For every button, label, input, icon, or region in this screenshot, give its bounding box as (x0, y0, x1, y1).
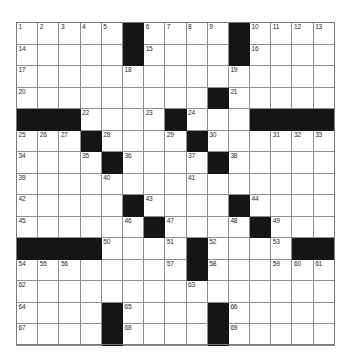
grid-cell[interactable]: 11 (271, 23, 292, 45)
grid-cell[interactable]: 34 (17, 152, 38, 174)
grid-cell[interactable] (165, 324, 186, 346)
grid-cell[interactable] (292, 216, 313, 238)
grid-cell[interactable]: 37 (186, 152, 207, 174)
grid-cell[interactable] (271, 302, 292, 324)
grid-cell[interactable] (80, 195, 101, 217)
grid-cell[interactable]: 21 (228, 87, 249, 109)
grid-cell[interactable] (186, 44, 207, 66)
grid-cell[interactable] (80, 259, 101, 281)
grid-cell[interactable] (165, 87, 186, 109)
grid-cell[interactable] (207, 195, 228, 217)
grid-cell[interactable]: 14 (17, 44, 38, 66)
grid-cell[interactable] (292, 44, 313, 66)
grid-cell[interactable] (271, 66, 292, 88)
grid-cell[interactable] (165, 152, 186, 174)
grid-cell[interactable]: 36 (122, 152, 143, 174)
grid-cell[interactable]: 39 (17, 173, 38, 195)
grid-cell[interactable] (38, 66, 59, 88)
grid-cell[interactable]: 16 (250, 44, 271, 66)
grid-cell[interactable]: 6 (144, 23, 165, 45)
grid-cell[interactable]: 66 (228, 302, 249, 324)
grid-cell[interactable] (313, 324, 334, 346)
grid-cell[interactable]: 53 (271, 238, 292, 260)
grid-cell[interactable]: 68 (122, 324, 143, 346)
grid-cell[interactable] (313, 216, 334, 238)
grid-cell[interactable]: 7 (165, 23, 186, 45)
grid-cell[interactable]: 38 (228, 152, 249, 174)
grid-cell[interactable] (228, 173, 249, 195)
grid-cell[interactable] (207, 44, 228, 66)
grid-cell[interactable] (207, 109, 228, 131)
grid-cell[interactable] (144, 130, 165, 152)
grid-cell[interactable]: 25 (17, 130, 38, 152)
grid-cell[interactable] (292, 66, 313, 88)
grid-cell[interactable]: 64 (17, 302, 38, 324)
grid-cell[interactable] (59, 195, 80, 217)
grid-cell[interactable]: 19 (228, 66, 249, 88)
grid-cell[interactable]: 18 (122, 66, 143, 88)
grid-cell[interactable] (144, 152, 165, 174)
grid-cell[interactable] (250, 173, 271, 195)
grid-cell[interactable]: 26 (38, 130, 59, 152)
grid-cell[interactable]: 63 (186, 281, 207, 303)
grid-cell[interactable] (122, 173, 143, 195)
grid-cell[interactable] (313, 87, 334, 109)
grid-cell[interactable] (186, 302, 207, 324)
grid-cell[interactable] (59, 44, 80, 66)
grid-cell[interactable]: 48 (228, 216, 249, 238)
grid-cell[interactable] (271, 87, 292, 109)
grid-cell[interactable] (313, 281, 334, 303)
grid-cell[interactable] (250, 302, 271, 324)
grid-cell[interactable]: 51 (165, 238, 186, 260)
grid-cell[interactable]: 55 (38, 259, 59, 281)
grid-cell[interactable] (207, 66, 228, 88)
grid-cell[interactable] (292, 152, 313, 174)
grid-cell[interactable] (228, 130, 249, 152)
grid-cell[interactable] (313, 66, 334, 88)
grid-cell[interactable] (101, 87, 122, 109)
grid-cell[interactable]: 5 (101, 23, 122, 45)
grid-cell[interactable]: 65 (122, 302, 143, 324)
grid-cell[interactable] (59, 281, 80, 303)
grid-cell[interactable] (38, 281, 59, 303)
grid-cell[interactable] (250, 66, 271, 88)
grid-cell[interactable] (313, 173, 334, 195)
grid-cell[interactable] (292, 302, 313, 324)
grid-cell[interactable]: 49 (271, 216, 292, 238)
grid-cell[interactable]: 59 (271, 259, 292, 281)
grid-cell[interactable]: 35 (80, 152, 101, 174)
grid-cell[interactable] (186, 195, 207, 217)
grid-cell[interactable]: 3 (59, 23, 80, 45)
grid-cell[interactable] (313, 195, 334, 217)
grid-cell[interactable] (250, 259, 271, 281)
grid-cell[interactable]: 54 (17, 259, 38, 281)
grid-cell[interactable]: 57 (165, 259, 186, 281)
grid-cell[interactable] (122, 238, 143, 260)
grid-cell[interactable] (250, 152, 271, 174)
grid-cell[interactable]: 8 (186, 23, 207, 45)
grid-cell[interactable] (101, 259, 122, 281)
grid-cell[interactable] (165, 173, 186, 195)
grid-cell[interactable] (271, 152, 292, 174)
grid-cell[interactable] (144, 87, 165, 109)
grid-cell[interactable] (144, 238, 165, 260)
grid-cell[interactable]: 44 (250, 195, 271, 217)
grid-cell[interactable]: 1 (17, 23, 38, 45)
grid-cell[interactable]: 45 (17, 216, 38, 238)
grid-cell[interactable]: 56 (59, 259, 80, 281)
grid-cell[interactable]: 41 (186, 173, 207, 195)
grid-cell[interactable]: 2 (38, 23, 59, 45)
grid-cell[interactable] (38, 152, 59, 174)
grid-cell[interactable] (80, 66, 101, 88)
grid-cell[interactable] (101, 216, 122, 238)
grid-cell[interactable]: 42 (17, 195, 38, 217)
grid-cell[interactable] (144, 259, 165, 281)
grid-cell[interactable] (38, 216, 59, 238)
grid-cell[interactable]: 33 (313, 130, 334, 152)
grid-cell[interactable]: 61 (313, 259, 334, 281)
grid-cell[interactable] (271, 44, 292, 66)
grid-cell[interactable] (59, 302, 80, 324)
grid-cell[interactable] (165, 195, 186, 217)
grid-cell[interactable] (292, 87, 313, 109)
grid-cell[interactable] (38, 195, 59, 217)
